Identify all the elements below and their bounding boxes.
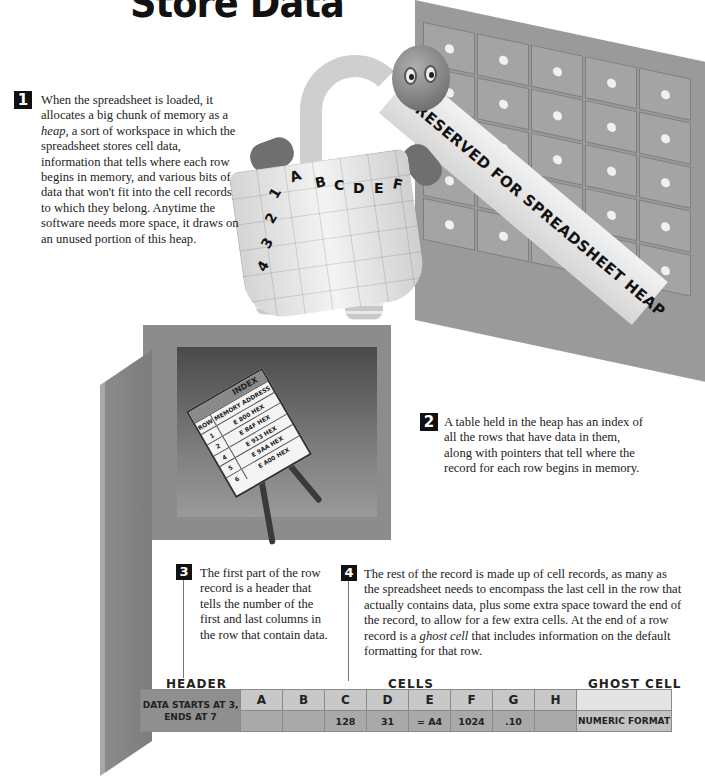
cell-value: 128 <box>325 711 367 732</box>
column-label: H <box>535 690 577 711</box>
ghost-cell-top <box>577 690 672 711</box>
page-title: Store Data <box>130 0 344 26</box>
cell-value: 31 <box>367 711 409 732</box>
step-4-pointer-line <box>348 581 349 681</box>
column-label: E <box>409 690 451 711</box>
step-1-text: When the spreadsheet is loaded, it alloc… <box>41 93 241 247</box>
step-3-badge: 3 <box>176 564 192 580</box>
column-label: A <box>241 690 283 711</box>
cell-value <box>241 711 283 732</box>
step-4-badge: 4 <box>341 565 357 581</box>
cell-value: .10 <box>493 711 535 732</box>
step-3-text: The first part of the row record is a he… <box>200 566 335 643</box>
robot-col-label: E <box>374 180 384 196</box>
column-label: F <box>451 690 493 711</box>
step-2-text: A table held in the heap has an index of… <box>444 415 644 477</box>
robot-col-label: C <box>334 177 344 193</box>
step-3-pointer-line <box>183 580 184 678</box>
robot-eye-icon <box>404 67 417 85</box>
column-label: B <box>283 690 325 711</box>
ghost-cell-value: NUMERIC FORMAT <box>577 711 672 732</box>
step-1-badge: 1 <box>14 91 32 109</box>
column-label: D <box>367 690 409 711</box>
step-4-text: The rest of the record is made up of cel… <box>364 567 684 659</box>
row-record-table: DATA STARTS AT 3, ENDS AT 7 A B C D E F … <box>140 689 672 732</box>
cell-value <box>535 711 577 732</box>
step-2-badge: 2 <box>420 413 438 431</box>
robot-spreadsheet-body <box>228 148 427 322</box>
cell-value: 1024 <box>451 711 493 732</box>
column-label: C <box>325 690 367 711</box>
cell-value <box>283 711 325 732</box>
drawer <box>423 198 475 251</box>
column-label: G <box>493 690 535 711</box>
header-cell: DATA STARTS AT 3, ENDS AT 7 <box>141 690 241 732</box>
cell-value: = A4 <box>409 711 451 732</box>
robot-col-label: D <box>353 180 365 196</box>
robot-eye-icon <box>424 65 437 83</box>
robot-head <box>392 45 450 111</box>
